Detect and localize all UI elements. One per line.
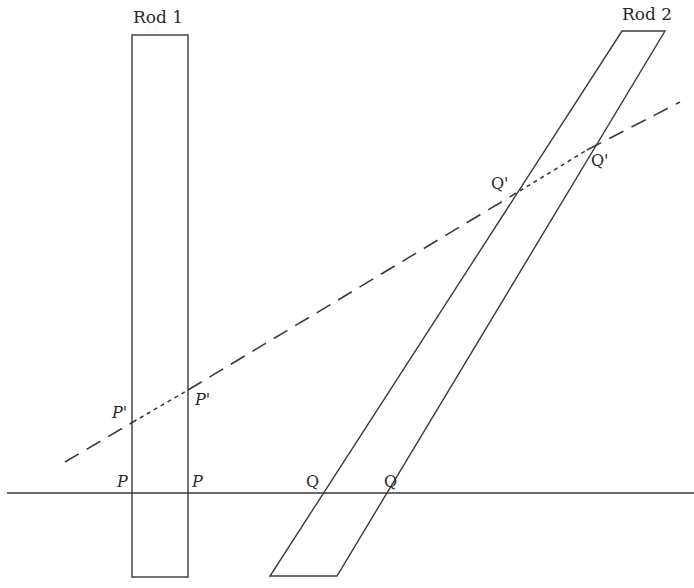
rod-1-shape (132, 35, 188, 577)
oblique-dotted-segment-rod-2 (513, 150, 587, 195)
rod-2-label: Rod 2 (622, 4, 672, 24)
point-p-right: P (191, 472, 203, 491)
oblique-dashed-segment-left (65, 422, 133, 462)
oblique-dashed-segment-right (587, 102, 680, 150)
rod-2-shape (270, 31, 665, 576)
rods-diagram: Rod 1 Rod 2 P P P' P' Q Q Q' Q' (0, 0, 694, 588)
point-q-left: Q (306, 472, 319, 491)
diagram-canvas: Rod 1 Rod 2 P P P' P' Q Q Q' Q' (0, 0, 694, 588)
point-p-prime-left: P' (111, 403, 127, 422)
rod-1-label: Rod 1 (133, 7, 183, 27)
oblique-dashed-segment-middle (188, 195, 513, 390)
oblique-dotted-segment-rod-1 (133, 390, 188, 422)
point-q-right: Q (384, 472, 397, 491)
point-q-prime-left: Q' (491, 174, 509, 193)
point-q-prime-right: Q' (591, 151, 609, 170)
point-p-prime-right: P' (194, 390, 210, 409)
point-p-left: P (116, 472, 128, 491)
